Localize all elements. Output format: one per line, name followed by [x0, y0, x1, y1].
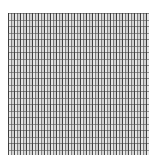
striped-texture-pattern: [8, 13, 149, 155]
